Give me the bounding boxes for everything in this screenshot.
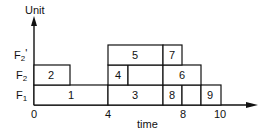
svg-text:F1: F1 [16, 89, 28, 103]
svg-text:F2: F2 [16, 69, 28, 83]
task-8-label: 8 [169, 89, 175, 101]
y-axis-arrow-icon [31, 16, 37, 26]
task-3-label: 3 [132, 89, 138, 101]
x-axis-label: time [137, 118, 158, 130]
row-label-f2-prime: F2' [14, 47, 27, 63]
x-tick-4: 4 [105, 108, 111, 120]
task-4-label: 4 [115, 69, 121, 81]
y-axis-label: Unit [25, 4, 45, 16]
task-6-label: 6 [179, 69, 185, 81]
x-tick-8: 8 [180, 108, 186, 120]
task-1-label: 1 [68, 89, 74, 101]
row-label-f2: F2 [16, 69, 28, 83]
task-7-label: 7 [169, 49, 175, 61]
empty-slot-f2 [128, 65, 163, 85]
empty-slot-f1 [182, 85, 201, 105]
x-tick-10: 10 [214, 108, 226, 120]
task-2-label: 2 [48, 69, 54, 81]
schedule-diagram: Unit time 0 4 8 10 F1 F2 F2' 1 3 8 9 2 4… [0, 0, 273, 139]
x-axis-arrow-icon [246, 102, 258, 108]
task-5-label: 5 [132, 49, 138, 61]
x-tick-0: 0 [31, 108, 37, 120]
task-9-label: 9 [207, 89, 213, 101]
svg-text:F2': F2' [14, 47, 27, 63]
row-label-f1: F1 [16, 89, 28, 103]
